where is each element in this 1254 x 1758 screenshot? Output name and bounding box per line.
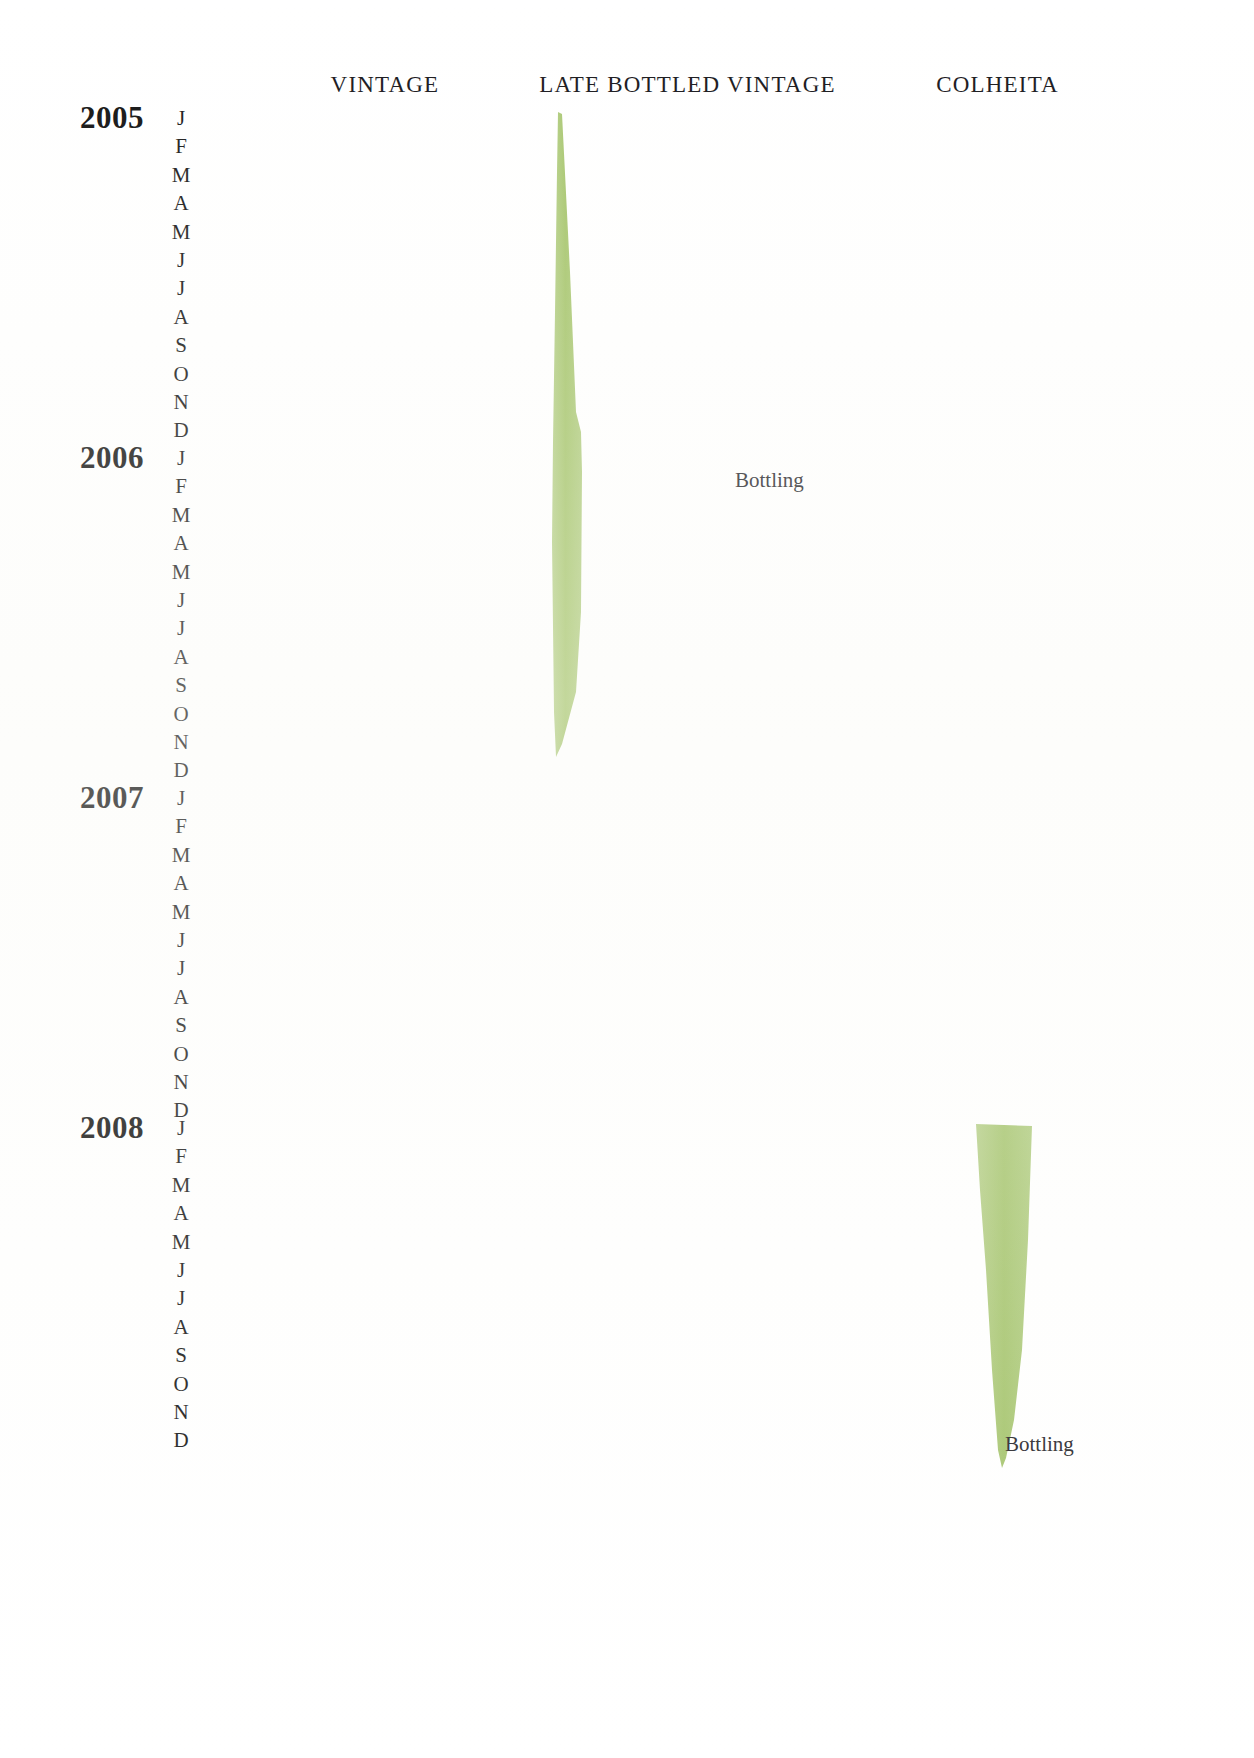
month-letter: J	[168, 954, 194, 982]
month-letter: O	[168, 700, 194, 728]
month-letter: S	[168, 671, 194, 699]
month-letter: A	[168, 529, 194, 557]
month-letter: J	[168, 1284, 194, 1312]
month-letter: J	[168, 1256, 194, 1284]
month-letter: N	[168, 388, 194, 416]
year-label-2006: 2006	[52, 440, 144, 476]
month-letter: D	[168, 1426, 194, 1454]
month-letter: O	[168, 360, 194, 388]
month-letter: D	[168, 756, 194, 784]
month-letter: M	[168, 841, 194, 869]
month-letter: A	[168, 643, 194, 671]
month-letter: S	[168, 331, 194, 359]
month-letter: F	[168, 472, 194, 500]
month-letter: F	[168, 1142, 194, 1170]
year-label-2005: 2005	[52, 100, 144, 136]
month-letter: S	[168, 1011, 194, 1039]
month-letter: N	[168, 1398, 194, 1426]
month-letter: N	[168, 1068, 194, 1096]
month-letter: N	[168, 728, 194, 756]
column-header-vintage: VINTAGE	[265, 72, 505, 98]
month-letter: J	[168, 444, 194, 472]
month-letter: M	[168, 161, 194, 189]
month-letter: O	[168, 1040, 194, 1068]
month-letter: O	[168, 1370, 194, 1398]
bottling-band-colheita	[960, 1120, 1090, 1470]
month-letter: S	[168, 1341, 194, 1369]
month-letter: J	[168, 246, 194, 274]
month-letter: D	[168, 416, 194, 444]
month-axis-2005: JFMAMJJASOND	[168, 104, 194, 445]
bottling-label-late-bottled-vintage: Bottling	[735, 468, 804, 493]
column-header-colheita: COLHEITA	[880, 72, 1115, 98]
month-letter: A	[168, 1313, 194, 1341]
month-letter: J	[168, 614, 194, 642]
month-letter: A	[168, 189, 194, 217]
month-letter: M	[168, 218, 194, 246]
month-axis-2007: JFMAMJJASOND	[168, 784, 194, 1125]
year-label-2008: 2008	[52, 1110, 144, 1146]
chart-sheet: VINTAGE LATE BOTTLED VINTAGE COLHEITA	[0, 0, 1254, 1758]
bottling-label-colheita: Bottling	[1005, 1432, 1074, 1457]
month-letter: A	[168, 1199, 194, 1227]
month-letter: A	[168, 303, 194, 331]
month-letter: J	[168, 104, 194, 132]
month-letter: M	[168, 1171, 194, 1199]
month-letter: J	[168, 586, 194, 614]
month-letter: M	[168, 1228, 194, 1256]
month-letter: J	[168, 784, 194, 812]
month-letter: A	[168, 983, 194, 1011]
year-label-2007: 2007	[52, 780, 144, 816]
month-axis-2006: JFMAMJJASOND	[168, 444, 194, 785]
month-letter: F	[168, 132, 194, 160]
month-letter: J	[168, 274, 194, 302]
column-header-late-bottled-vintage: LATE BOTTLED VINTAGE	[515, 72, 860, 98]
month-letter: M	[168, 898, 194, 926]
month-letter: J	[168, 1114, 194, 1142]
month-letter: J	[168, 926, 194, 954]
bottling-band-late-bottled-vintage	[540, 112, 660, 757]
month-axis-2008: JFMAMJJASOND	[168, 1114, 194, 1455]
month-letter: M	[168, 558, 194, 586]
month-letter: F	[168, 812, 194, 840]
month-letter: A	[168, 869, 194, 897]
month-letter: M	[168, 501, 194, 529]
